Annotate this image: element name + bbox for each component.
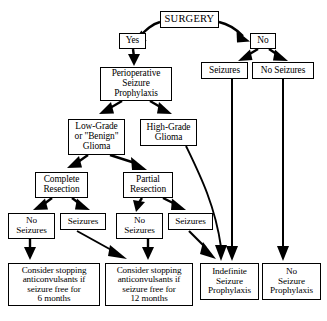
edge-no-to-seizures	[238, 49, 258, 61]
edge-yes-to-perioperative	[128, 49, 140, 66]
edge-perioperative-to-lowgrade	[99, 101, 122, 114]
node-seizures_top: Seizures	[201, 62, 248, 79]
node-lowgrade: Low-Grade or "Benign" Glioma	[68, 119, 125, 155]
edge-complete-to-seizures1	[72, 198, 90, 210]
node-consider12: Consider stopping anticonvulsants if sei…	[105, 263, 193, 306]
edge-seizures-top-to-indefinite	[226, 79, 238, 261]
node-sz2: Seizures	[168, 213, 213, 230]
node-periop: Perioperative Seizure Prophylaxis	[100, 67, 172, 101]
edge-complete-to-noseizures1	[33, 198, 52, 210]
edge-highgrade-to-indefinite	[186, 146, 227, 261]
node-consider6: Consider stopping anticonvulsants if sei…	[8, 263, 100, 306]
edge-lowgrade-to-complete	[67, 155, 88, 168]
edge-noseizures1-to-consider6	[24, 239, 36, 260]
node-ns2: No Seizures	[116, 213, 163, 239]
node-surgery: SURGERY	[160, 11, 219, 28]
edge-noseizures-top-to-noprophylaxis	[277, 79, 289, 261]
edge-partial-to-noseizures2	[133, 198, 145, 212]
edge-surgery-to-no	[219, 22, 250, 43]
node-complete: Complete Resection	[35, 172, 88, 198]
node-yes: Yes	[119, 33, 146, 49]
edge-perioperative-to-highgrade	[150, 101, 172, 114]
flowchart-diagram: SURGERYYesNoSeizuresNo SeizuresPeriopera…	[0, 0, 327, 321]
node-noprophylaxis: No Seizure Prophylaxis	[262, 263, 321, 300]
node-ns1: No Seizures	[8, 213, 55, 239]
edge-partial-to-seizures2	[163, 198, 186, 210]
node-indefinite: Indefinite Seizure Prophylaxis	[200, 263, 259, 300]
node-sz1: Seizures	[60, 213, 106, 230]
edge-lowgrade-to-partial	[110, 155, 147, 170]
node-partial: Partial Resection	[123, 172, 173, 198]
edge-no-to-no-seizures	[269, 49, 288, 61]
node-no: No	[250, 33, 276, 49]
node-highgrade: High-Grade Glioma	[140, 119, 197, 146]
edge-seizures2-to-indefinite	[189, 231, 216, 259]
node-noseizures_top: No Seizures	[252, 62, 314, 79]
edge-noseizures2-to-consider12	[142, 239, 154, 260]
